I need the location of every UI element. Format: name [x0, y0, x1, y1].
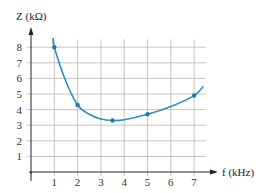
gridlines — [27, 39, 206, 176]
data-point — [192, 93, 196, 97]
y-axis-arrow-icon — [29, 27, 34, 35]
x-tick-1: 1 — [52, 176, 58, 188]
y-tick-3: 3 — [17, 119, 23, 131]
data-point — [52, 45, 56, 49]
y-tick-5: 5 — [17, 88, 23, 100]
x-axis-arrow-icon — [210, 170, 218, 175]
x-tick-5: 5 — [145, 176, 151, 188]
y-tick-1: 1 — [17, 150, 23, 162]
x-tick-7: 7 — [191, 176, 197, 188]
chart: 1234567 12345678 Z (kΩ) f (kHz) — [0, 0, 265, 193]
x-tick-4: 4 — [121, 176, 127, 188]
y-tick-2: 2 — [17, 135, 23, 147]
y-tick-6: 6 — [17, 72, 23, 84]
y-axis-label: Z (kΩ) — [16, 10, 47, 23]
x-tick-labels: 1234567 — [52, 176, 198, 188]
y-tick-4: 4 — [17, 104, 23, 116]
data-curve — [53, 38, 203, 121]
data-point — [75, 103, 79, 107]
x-tick-3: 3 — [98, 176, 104, 188]
data-point — [145, 112, 149, 116]
data-point — [110, 118, 114, 122]
x-tick-6: 6 — [168, 176, 174, 188]
y-tick-8: 8 — [17, 41, 23, 53]
x-tick-2: 2 — [75, 176, 81, 188]
y-tick-7: 7 — [17, 57, 23, 69]
axes — [29, 27, 219, 181]
y-tick-labels: 12345678 — [17, 41, 23, 162]
x-axis-label: f (kHz) — [222, 166, 254, 179]
